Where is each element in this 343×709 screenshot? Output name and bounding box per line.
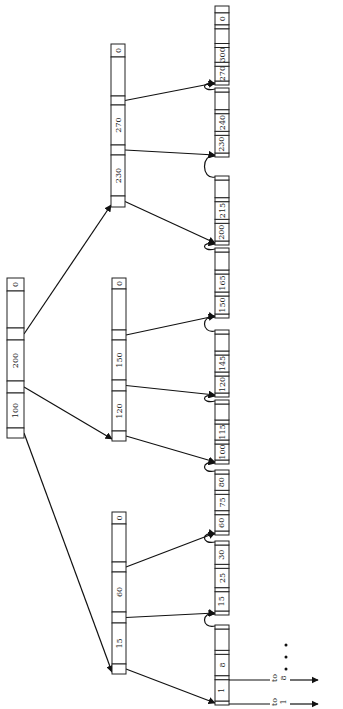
empty-key-cell <box>112 524 126 562</box>
record-pointer-cell <box>215 511 229 515</box>
leaf-node-leaf-1: 18 <box>215 625 229 705</box>
empty-leaf-key-cell <box>215 92 229 110</box>
child-pointer-arrow <box>126 533 215 567</box>
child-pointer-arrow <box>125 202 215 244</box>
pointer-cell <box>112 431 126 441</box>
leaf-key-label: 215 <box>218 203 227 218</box>
record-pointer-cell <box>215 564 229 568</box>
ellipsis-dot <box>285 656 288 659</box>
child-pointer-arrow <box>126 436 215 462</box>
empty-key-cell <box>7 291 24 328</box>
leaf-key-label: 145 <box>218 356 227 371</box>
next-leaf-arrow <box>205 614 216 627</box>
leaf-key-label: 80 <box>218 477 227 487</box>
child-pointer-arrow <box>24 433 112 672</box>
external-pointer-2: to8 <box>229 674 318 682</box>
record-pointer-cell <box>215 25 229 29</box>
record-pointer-cell <box>215 153 229 157</box>
leaf-node-leaf-7: 200215 <box>215 176 229 245</box>
leaf-key-label: 15 <box>218 596 227 606</box>
pointer-cell <box>112 612 126 623</box>
leaf-key-label: 240 <box>218 115 227 130</box>
next-leaf-pointer-cell <box>215 470 229 474</box>
child-pointer-arrow <box>24 387 112 439</box>
leaf-key-label: 1 <box>218 688 227 693</box>
key-label: 230 <box>114 168 123 183</box>
key-label: 150 <box>115 352 124 367</box>
external-pointer-1: to1 <box>229 698 318 706</box>
leaf-key-label: 100 <box>218 444 227 459</box>
record-pointer-cell <box>215 270 229 274</box>
record-pointer-cell <box>215 372 229 376</box>
empty-key-cell <box>111 57 125 96</box>
record-pointer-cell <box>215 198 229 202</box>
pointer-cell <box>111 96 125 105</box>
leaf-key-label: 200 <box>218 225 227 240</box>
child-pointer-arrow <box>125 83 215 101</box>
internal-node-internal-b: 0150120 <box>112 278 126 441</box>
record-pointer-cell <box>215 314 229 318</box>
record-pointer-cell <box>215 588 229 592</box>
leaf-key-label: 150 <box>218 297 227 312</box>
leaf-key-label: 120 <box>218 377 227 392</box>
record-pointer-cell <box>215 219 229 223</box>
empty-key-cell <box>112 289 126 330</box>
key-label: 120 <box>115 403 124 418</box>
child-pointer-arrow <box>126 669 215 703</box>
leaf-node-leaf-3: 607580 <box>215 470 229 535</box>
leaf-node-leaf-9: 2703000 <box>215 6 229 85</box>
next-leaf-arrow <box>205 463 216 472</box>
leaf-node-leaf-6: 150165 <box>215 248 229 318</box>
record-pointer-cell <box>215 490 229 494</box>
empty-leaf-key-cell <box>215 252 229 270</box>
record-pointer-cell <box>215 650 229 654</box>
empty-leaf-key-cell <box>215 404 229 420</box>
empty-leaf-key-cell <box>215 334 229 351</box>
ellipsis-dot <box>285 644 288 647</box>
child-pointer-arrow <box>125 150 215 155</box>
pointer-cell <box>112 330 126 340</box>
next-leaf-pointer-cell <box>215 88 229 92</box>
pointer-cell <box>112 562 126 572</box>
child-pointer-arrow <box>24 205 111 334</box>
root-node: 0200100 <box>7 278 24 438</box>
to-label: to <box>270 674 279 682</box>
next-leaf-arrow <box>205 156 216 177</box>
pointer-cell <box>112 380 126 391</box>
child-pointer-arrow <box>126 613 215 618</box>
record-pointer-cell <box>215 393 229 397</box>
leaf-key-label: 75 <box>218 497 227 507</box>
external-record-pointers: to1to8 <box>229 644 318 707</box>
record-pointer-cell <box>215 44 229 48</box>
child-pointer-arrow <box>126 386 215 396</box>
next-leaf-pointer-cell <box>215 400 229 404</box>
leaf-key-label: 25 <box>218 573 227 583</box>
key-label: 100 <box>11 403 20 418</box>
key-label: 15 <box>115 638 124 648</box>
leaf-node-leaf-4: 100115 <box>215 400 229 464</box>
key-label: 0 <box>115 515 124 520</box>
key-label: 0 <box>114 48 123 53</box>
record-pointer-cell <box>215 241 229 245</box>
ellipsis-dot <box>285 668 288 671</box>
empty-leaf-key-cell <box>215 29 229 44</box>
pointer-cell <box>7 381 24 393</box>
empty-leaf-key-cell <box>215 180 229 198</box>
pointer-cell <box>7 328 24 340</box>
record-pointer-cell <box>215 701 229 705</box>
internal-node-internal-c: 0270230 <box>111 44 125 207</box>
record-pointer-cell <box>215 676 229 680</box>
internal-node-internal-a: 06015 <box>112 512 126 674</box>
leaf-key-label: 300 <box>218 47 227 62</box>
next-leaf-arrow <box>205 317 216 332</box>
key-label: 60 <box>115 587 124 597</box>
next-leaf-arrow <box>205 243 216 249</box>
record-pointer-cell <box>215 292 229 296</box>
target-label: 1 <box>279 699 288 704</box>
next-leaf-pointer-cell <box>215 248 229 252</box>
leaf-node-leaf-2: 152530 <box>215 541 229 615</box>
child-pointer-arrow <box>126 316 215 335</box>
leaf-key-label: 0 <box>218 16 227 21</box>
next-leaf-pointer-cell <box>215 541 229 545</box>
leaf-node-leaf-5: 120145 <box>215 330 229 397</box>
